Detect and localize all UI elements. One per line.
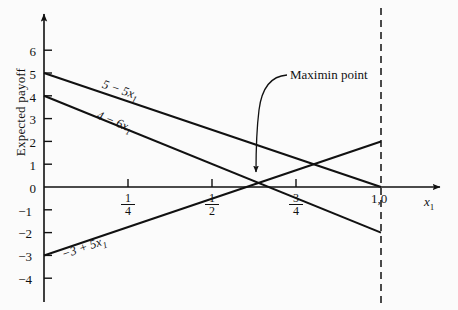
y-tick-label-1: 1: [10, 158, 36, 174]
x-tick-label-one-point-zero: 1,0: [371, 191, 387, 207]
annotation-maximin-point: Maximin point: [290, 67, 368, 83]
y-axis: [44, 14, 52, 302]
fraction-numerator: 1: [205, 192, 219, 205]
chart-figure: Expected payoff 6 5 4 3 2 1 0 −1 −2 −3 −…: [0, 0, 458, 310]
fraction-denominator: 2: [201, 205, 223, 219]
y-tick-label-3: 3: [10, 112, 36, 128]
plot-canvas: [0, 0, 458, 310]
fraction-numerator: 1: [121, 192, 135, 205]
x-axis-title-subscript: 1: [430, 202, 435, 212]
x-tick-label-three-quarters: 3 4: [285, 192, 307, 219]
y-tick-label-minus-4: −4: [6, 272, 32, 288]
x-axis-title: x1: [424, 194, 434, 212]
series-line-5-minus-5x1: [44, 73, 381, 187]
x-tick-label-one-half: 1 2: [201, 192, 223, 219]
y-tick-label-0: 0: [10, 181, 36, 197]
fraction-denominator: 4: [285, 205, 307, 219]
annotation-leader-arrow: [256, 75, 287, 172]
fraction-denominator: 4: [117, 205, 139, 219]
x-tick-label-one-quarter: 1 4: [117, 192, 139, 219]
fraction-numerator: 3: [289, 192, 303, 205]
y-tick-label-5: 5: [10, 67, 36, 83]
y-tick-label-6: 6: [10, 44, 36, 60]
y-tick-label-minus-3: −3: [6, 249, 32, 265]
y-tick-label-2: 2: [10, 135, 36, 151]
y-tick-label-minus-2: −2: [6, 226, 32, 242]
y-tick-label-minus-1: −1: [6, 204, 32, 220]
y-tick-label-4: 4: [10, 90, 36, 106]
